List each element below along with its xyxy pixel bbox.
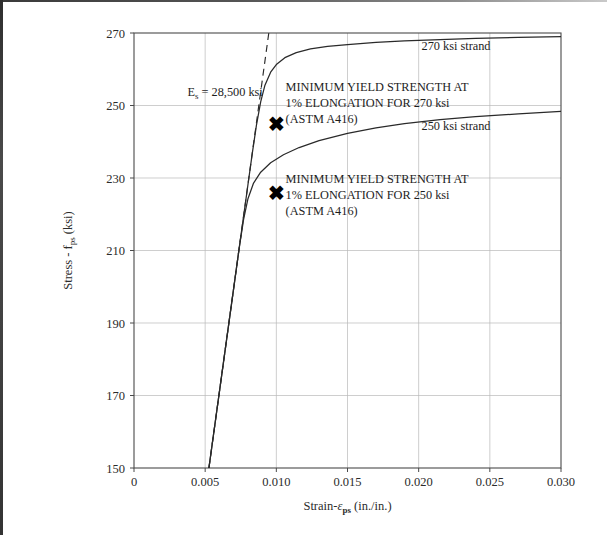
- stress-strain-figure: 00.0050.0100.0150.0200.0250.030 15017019…: [0, 0, 607, 535]
- y-tick-label: 250: [106, 99, 125, 113]
- curve-250-ksi-strand: [209, 111, 561, 468]
- y-tick-labels: 150170190210230250270: [106, 27, 125, 476]
- x-tick-label: 0.025: [476, 475, 504, 489]
- y-tick-label: 270: [106, 27, 125, 41]
- y-tick-label: 210: [106, 244, 125, 258]
- x-tick-label: 0.005: [191, 475, 219, 489]
- y-tick-label: 190: [106, 317, 125, 331]
- x-tick-label: 0.030: [547, 475, 575, 489]
- axis-titles-layer: Es = 28,500 ksiStress - fps (ksi)Strain-…: [61, 85, 392, 516]
- modulus-label: Es = 28,500 ksi: [187, 85, 263, 101]
- y-axis-title: Stress - fps (ksi): [61, 211, 77, 290]
- x-tick-labels: 00.0050.0100.0150.0200.0250.030: [131, 475, 575, 489]
- yield-marker-270: ✖: [268, 113, 285, 135]
- stress-strain-chart: 00.0050.0100.0150.0200.0250.030 15017019…: [0, 0, 607, 535]
- x-tick-label: 0.020: [405, 475, 433, 489]
- y-tick-label: 170: [106, 389, 125, 403]
- annotation-270-line: (ASTM A416): [286, 112, 358, 126]
- label-270-strand: 270 ksi strand: [422, 39, 491, 53]
- x-tick-label: 0.010: [262, 475, 290, 489]
- y-tick-label: 230: [106, 172, 125, 186]
- annotations-layer: MINIMUM YIELD STRENGTH AT1% ELONGATION F…: [286, 80, 469, 218]
- x-tick-label: 0.015: [333, 475, 361, 489]
- x-tick-label: 0: [131, 475, 137, 489]
- x-axis-title: Strain-εps (in./in.): [303, 499, 391, 515]
- yield-marker-250: ✖: [268, 182, 285, 204]
- annotation-250-line: 1% ELONGATION FOR 250 ksi: [286, 188, 451, 202]
- y-tick-label: 150: [106, 462, 125, 476]
- annotation-250-line: MINIMUM YIELD STRENGTH AT: [286, 172, 469, 186]
- annotation-250-line: (ASTM A416): [286, 204, 358, 218]
- label-250-strand: 250 ksi strand: [422, 119, 491, 133]
- annotation-270-line: 1% ELONGATION FOR 270 ksi: [286, 96, 451, 110]
- annotation-270-line: MINIMUM YIELD STRENGTH AT: [286, 80, 469, 94]
